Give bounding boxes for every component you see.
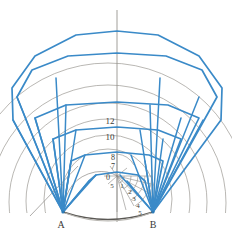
scale-label-0: 0 — [106, 173, 110, 182]
scale-label-7: 7 — [111, 162, 115, 171]
base-point-b — [151, 210, 154, 213]
scale-label-10: 10 — [106, 132, 116, 142]
label-point-b: B — [150, 219, 157, 230]
construction-circle — [61, 149, 155, 239]
base-point-a — [61, 210, 64, 213]
geometric-construction-figure: A B 12 10 8 7 0 5 1 2 3 4 5 — [0, 0, 232, 239]
diagram-canvas: A B 12 10 8 7 0 5 1 2 3 4 5 — [0, 0, 232, 239]
label-point-a: A — [57, 219, 65, 230]
scale-label-12: 12 — [106, 116, 115, 126]
scale-label-5-left: 5 — [110, 182, 114, 190]
scale-label-1: 1 — [120, 182, 124, 190]
scale-label-5-bottom: 5 — [138, 209, 142, 217]
scale-label-8: 8 — [111, 153, 115, 162]
